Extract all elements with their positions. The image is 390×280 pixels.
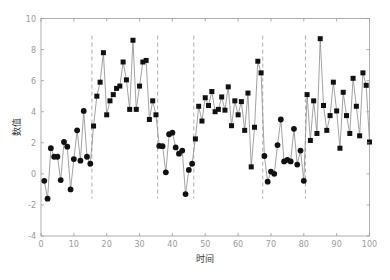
square-marker	[144, 58, 149, 63]
square-marker	[314, 131, 319, 136]
circle-marker	[275, 142, 281, 148]
y-tick-label: 10	[26, 15, 36, 24]
square-marker	[367, 140, 372, 145]
circle-marker	[186, 167, 192, 173]
circle-marker	[170, 130, 176, 136]
y-tick-label: -4	[28, 232, 36, 241]
circle-marker	[261, 153, 267, 159]
circle-marker	[48, 145, 54, 151]
x-tick-label: 10	[69, 240, 79, 249]
data-markers	[41, 36, 372, 201]
square-marker	[318, 36, 323, 41]
square-marker	[111, 92, 116, 97]
circle-marker	[189, 161, 195, 167]
square-marker	[229, 123, 234, 128]
x-axis-title: 时间	[196, 253, 214, 264]
square-marker	[206, 103, 211, 108]
square-marker	[354, 104, 359, 109]
square-marker	[203, 95, 208, 100]
circle-marker	[58, 177, 64, 183]
circle-marker	[163, 169, 169, 175]
square-marker	[134, 107, 139, 112]
circle-marker	[61, 139, 67, 145]
square-marker	[364, 83, 369, 88]
square-marker	[121, 60, 126, 65]
square-marker	[232, 98, 237, 103]
square-marker	[124, 77, 129, 82]
square-marker	[91, 124, 96, 129]
circle-marker	[45, 196, 51, 202]
circle-marker	[183, 191, 189, 197]
y-tick-label: 0	[31, 170, 36, 179]
x-tick-label: 40	[167, 240, 177, 249]
y-tick-label: -2	[28, 201, 36, 210]
circle-marker	[87, 161, 93, 167]
square-marker	[249, 164, 254, 169]
square-marker	[222, 108, 227, 113]
circle-marker	[294, 162, 300, 168]
circle-marker	[301, 178, 307, 184]
square-marker	[242, 128, 247, 133]
circle-marker	[71, 156, 77, 162]
y-tick-label: 4	[31, 108, 36, 117]
circle-marker	[68, 186, 74, 192]
square-marker	[324, 128, 329, 133]
square-marker	[331, 80, 336, 85]
series-line	[44, 39, 369, 199]
x-tick-label: 50	[200, 240, 210, 249]
square-marker	[226, 84, 231, 89]
square-marker	[107, 98, 112, 103]
square-marker	[360, 70, 365, 75]
square-marker	[328, 113, 333, 118]
circle-marker	[298, 148, 304, 154]
square-marker	[259, 70, 264, 75]
square-marker	[147, 117, 152, 122]
square-marker	[219, 94, 224, 99]
square-marker	[334, 108, 339, 113]
square-marker	[311, 98, 316, 103]
circle-marker	[179, 148, 185, 154]
x-tick-label: 0	[38, 240, 43, 249]
square-marker	[199, 119, 204, 124]
square-marker	[252, 125, 257, 130]
y-tick-label: 8	[31, 46, 36, 55]
square-marker	[127, 107, 132, 112]
square-marker	[196, 104, 201, 109]
square-marker	[351, 76, 356, 81]
square-marker	[137, 84, 142, 89]
x-tick-label: 70	[266, 240, 276, 249]
square-marker	[153, 112, 158, 117]
circle-marker	[41, 178, 47, 184]
circle-marker	[288, 159, 294, 165]
x-tick-label: 20	[102, 240, 112, 249]
square-marker	[347, 131, 352, 136]
square-marker	[130, 38, 135, 43]
square-marker	[245, 91, 250, 96]
plot-frame	[41, 19, 370, 237]
square-marker	[337, 146, 342, 151]
square-marker	[117, 84, 122, 89]
x-tick-label: 100	[362, 240, 377, 249]
circle-marker	[64, 144, 70, 150]
square-marker	[209, 89, 214, 94]
square-marker	[357, 133, 362, 138]
y-tick-label: 6	[31, 77, 36, 86]
x-tick-label: 60	[233, 240, 243, 249]
circle-marker	[173, 145, 179, 151]
square-marker	[341, 90, 346, 95]
square-marker	[236, 112, 241, 117]
square-marker	[193, 136, 198, 141]
circle-marker	[81, 108, 87, 114]
square-marker	[98, 80, 103, 85]
square-marker	[239, 99, 244, 104]
circle-marker	[291, 126, 297, 132]
circle-marker	[84, 154, 90, 160]
chart: 0102030405060708090100-4-20246810 时间 数值	[0, 0, 390, 280]
circle-marker	[160, 143, 166, 149]
square-marker	[216, 107, 221, 112]
plot-border	[41, 19, 370, 237]
y-tick-label: 2	[31, 139, 36, 148]
circle-marker	[278, 117, 284, 123]
square-marker	[94, 94, 99, 99]
square-marker	[255, 59, 260, 64]
